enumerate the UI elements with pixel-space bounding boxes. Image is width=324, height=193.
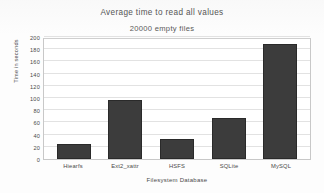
y-axis-tick-label: 40 (33, 133, 40, 139)
bar-slot (151, 39, 203, 159)
bar-slot (203, 39, 255, 159)
y-axis-tick-label: 200 (30, 35, 40, 41)
bar-slot (100, 39, 152, 159)
plot-area (43, 38, 311, 160)
bar-slot (254, 39, 306, 159)
chart-title: Average time to read all values (0, 8, 324, 17)
x-axis-tick-label: HSFS (151, 163, 203, 169)
y-axis-ticks: 020406080100120140160180200 (24, 38, 42, 160)
y-axis-title: Time in seconds (13, 19, 19, 103)
bar (263, 44, 297, 159)
y-axis-tick-label: 60 (33, 120, 40, 126)
x-axis-tick-label: MySQL (255, 163, 307, 169)
bar-series (44, 39, 310, 159)
y-axis-tick-label: 20 (33, 145, 40, 151)
bar (160, 139, 194, 159)
bar (212, 118, 246, 159)
y-axis-tick-label: 120 (30, 84, 40, 90)
x-axis-tick-label: Ext2_xattr (99, 163, 151, 169)
bar-slot (48, 39, 100, 159)
y-axis-tick-label: 160 (30, 59, 40, 65)
y-axis-tick-label: 140 (30, 72, 40, 78)
x-axis-tick-label: SQLite (203, 163, 255, 169)
y-axis-tick-label: 100 (30, 96, 40, 102)
y-axis-tick-label: 0 (37, 157, 40, 163)
gridline (44, 36, 310, 37)
x-axis-tick-label: Hiearfs (47, 163, 99, 169)
chart-subtitle: 20000 empty files (0, 24, 324, 33)
bar (57, 144, 91, 159)
y-axis-tick-label: 80 (33, 108, 40, 114)
x-axis-tick-labels: HiearfsExt2_xattrHSFSSQLiteMySQL (43, 163, 311, 169)
y-axis-tick-label: 180 (30, 47, 40, 53)
bar (108, 100, 142, 159)
bar-chart: Average time to read all values 20000 em… (0, 0, 324, 193)
x-axis-title: Filesystem Database (43, 177, 311, 183)
